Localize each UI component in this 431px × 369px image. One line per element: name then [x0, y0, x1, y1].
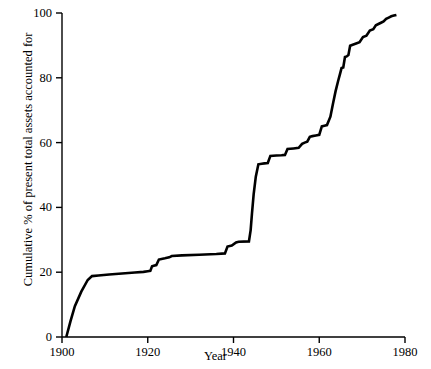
- cumulative-assets-line: [66, 15, 396, 337]
- y-axis-title: Cumulative % of present total assets acc…: [22, 46, 35, 286]
- chart-plot-area: [0, 0, 431, 369]
- y-axis-title-wrap: Cumulative % of present total assets acc…: [0, 0, 24, 345]
- y-axis-ticks: [56, 13, 62, 337]
- x-axis-title: Year: [0, 350, 431, 363]
- x-axis-ticks: [62, 337, 405, 343]
- chart-figure: 100806040200 19001920194019601980 Cumula…: [0, 0, 431, 369]
